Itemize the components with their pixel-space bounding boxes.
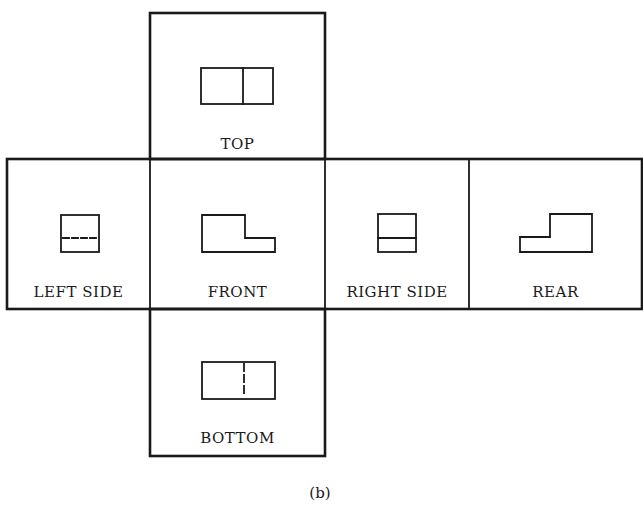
bottom-view-shape [202,362,275,399]
label-right-side: RIGHT SIDE [325,283,469,301]
rear-view-shape [520,214,592,252]
left-side-view-shape [61,215,99,252]
front-view-shape [202,215,275,252]
label-rear: REAR [469,283,642,301]
label-bottom: BOTTOM [150,429,325,447]
figure-caption: (b) [295,484,345,502]
top-view-shape [201,68,273,104]
label-top: TOP [150,135,325,153]
orthographic-views-figure: TOP LEFT SIDE FRONT RIGHT SIDE REAR BOTT… [0,0,643,507]
right-side-view-shape [378,214,416,252]
label-front: FRONT [150,283,325,301]
label-left-side: LEFT SIDE [7,283,150,301]
